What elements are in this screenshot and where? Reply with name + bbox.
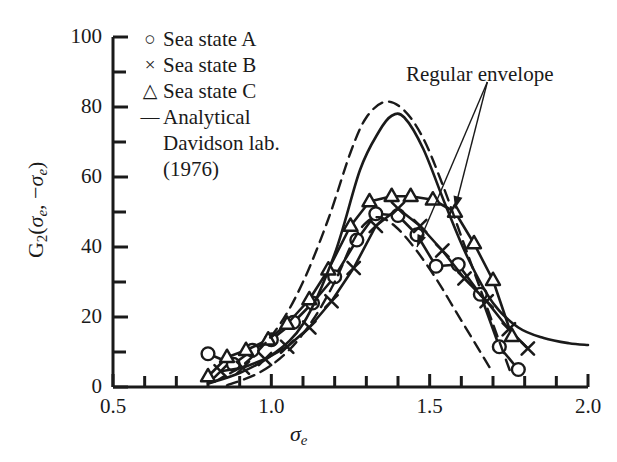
line-marker-icon: — [137,104,163,130]
x-title-subscript: e [301,432,308,448]
y-title-paren-open: ( [23,227,48,234]
y-title-separator: , − [23,186,48,209]
y-title-sigma-1-sub: e [34,210,50,217]
y-title-subscript: 2 [34,235,50,242]
y-tick-label: 0 [40,376,102,397]
x-tick-label: 1.0 [236,396,306,417]
cross-marker [522,342,534,354]
annotation-arrowhead [454,196,463,209]
legend-label-sea-state-a: Sea state A [163,26,256,52]
x-tick-label: 1.5 [395,396,465,417]
legend-label-year: (1976) [163,156,337,182]
cross-marker [370,220,382,232]
y-title-g: G [23,242,48,258]
legend-label-sea-state-b: Sea state B [163,52,256,78]
legend-label-analytical: Analytical [163,104,250,130]
y-title-paren-close: ) [23,162,48,169]
cross-marker-icon: × [137,52,163,78]
triangle-marker [486,273,500,285]
circle-marker [202,347,215,360]
x-tick-label: 0.5 [78,396,148,417]
circle-marker-icon: ○ [137,26,163,52]
y-tick-label: 100 [40,26,102,47]
y-title-sigma-2: σ [23,176,48,187]
x-title-sigma: σ [290,421,301,446]
circle-marker [512,363,525,376]
legend-item-sea-state-b: × Sea state B [137,52,337,78]
figure-container: 020406080100 0.51.01.52.0 G2(σe, −σe) σe… [0,0,617,462]
chart-legend: ○ Sea state A × Sea state B △ Sea state … [137,26,337,182]
y-tick-label: 80 [40,96,102,117]
annotation-regular-envelope: Regular envelope [406,62,554,87]
x-axis-title: σe [290,421,308,449]
legend-item-sea-state-a: ○ Sea state A [137,26,337,52]
y-title-sigma-2-sub: e [34,169,50,176]
legend-label-davidson-lab: Davidson lab. [163,130,337,156]
legend-item-sea-state-c: △ Sea state C [137,78,337,104]
cross-marker [436,244,448,256]
triangle-marker [385,189,399,201]
legend-label-sea-state-c: Sea state C [163,78,256,104]
legend-item-analytical: — Analytical [137,104,337,130]
x-tick-label: 2.0 [553,396,617,417]
cross-marker [347,262,359,274]
y-axis-title: G2(σe, −σe) [23,115,51,305]
y-title-sigma-1: σ [23,217,48,228]
triangle-marker [404,189,418,201]
y-tick-label: 20 [40,306,102,327]
triangle-marker-icon: △ [137,78,163,104]
